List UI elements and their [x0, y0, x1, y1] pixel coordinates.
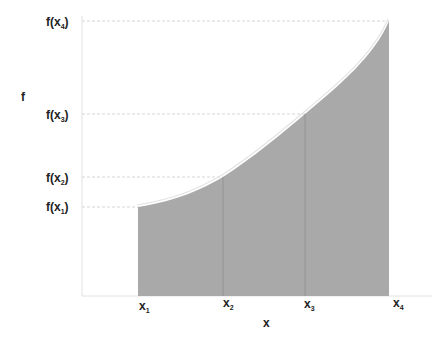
x-tick-label-x1: x1 — [139, 299, 150, 314]
area-under-curve — [138, 21, 389, 296]
x-tick-label-x3: x3 — [304, 297, 315, 312]
x-axis-label: x — [263, 316, 270, 330]
y-tick-label-fx4: f(x4) — [46, 15, 69, 30]
area-under-curve-diagram: f f(x4) f(x3) f(x2) f(x1) x1 x2 x3 x4 x — [0, 0, 436, 343]
y-tick-label-fx1: f(x1) — [46, 200, 69, 215]
y-tick-label-fx2: f(x2) — [46, 171, 69, 186]
x-tick-label-x4: x4 — [393, 296, 404, 311]
y-axis-label: f — [21, 90, 26, 104]
y-tick-label-fx3: f(x3) — [46, 108, 69, 123]
x-tick-label-x2: x2 — [223, 296, 234, 311]
